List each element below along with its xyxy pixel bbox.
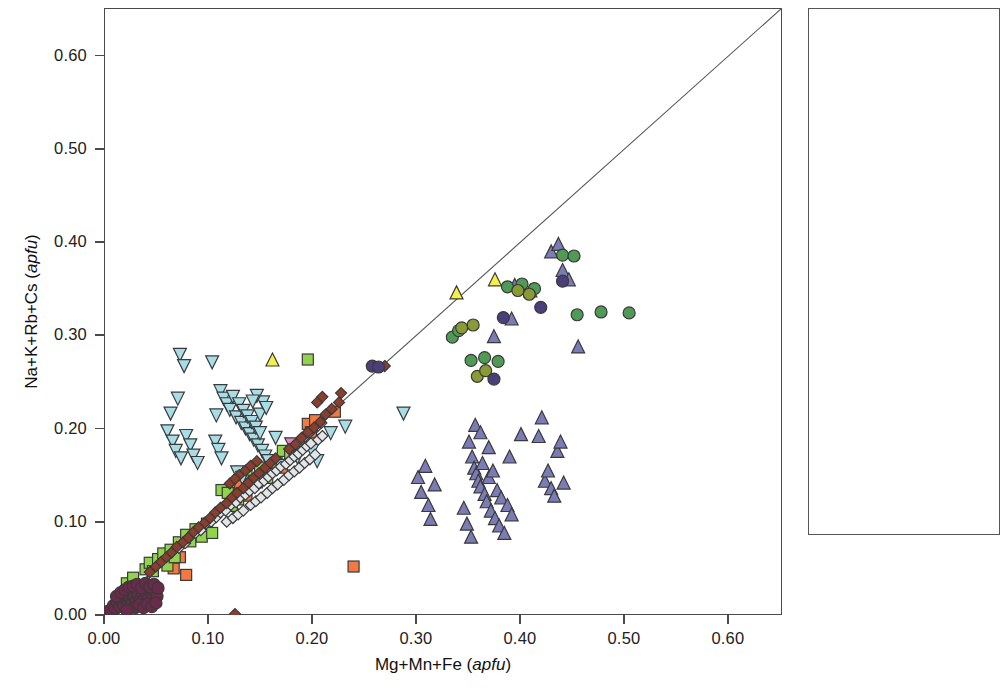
y-tick-label: 0.10 xyxy=(0,512,87,531)
x-tick-mark xyxy=(623,615,625,624)
x-tick-label: 0.40 xyxy=(475,629,565,648)
x-axis-title-unit: apfu xyxy=(472,655,505,674)
y-tick-mark xyxy=(95,55,104,57)
y-tick-label: 0.30 xyxy=(0,325,87,344)
x-axis-title-main: Mg+Mn+Fe xyxy=(375,655,462,674)
y-tick-label: 0.50 xyxy=(0,139,87,158)
plot-frame xyxy=(104,8,782,615)
y-axis-title-paren-close: ) xyxy=(22,234,41,240)
x-tick-mark xyxy=(415,615,417,624)
x-tick-mark xyxy=(311,615,313,624)
x-tick-mark xyxy=(519,615,521,624)
y-axis-title-main: Na+K+Rb+Cs xyxy=(22,283,41,388)
y-tick-mark xyxy=(95,428,104,430)
y-tick-label: 0.20 xyxy=(0,419,87,438)
y-tick-mark xyxy=(95,334,104,336)
y-tick-label: 0.00 xyxy=(0,605,87,624)
x-tick-label: 0.60 xyxy=(683,629,773,648)
x-tick-mark xyxy=(103,615,105,624)
x-axis-title: Mg+Mn+Fe (apfu) xyxy=(104,655,782,675)
scatter-plot-figure: 0.000.100.200.300.400.500.600.000.100.20… xyxy=(0,0,1004,691)
y-tick-label: 0.40 xyxy=(0,232,87,251)
x-tick-mark xyxy=(727,615,729,624)
y-tick-mark xyxy=(95,241,104,243)
x-tick-mark xyxy=(207,615,209,624)
y-tick-mark xyxy=(95,148,104,150)
x-tick-label: 0.10 xyxy=(163,629,253,648)
y-axis-title: Na+K+Rb+Cs (apfu) xyxy=(22,8,42,615)
x-tick-label: 0.50 xyxy=(579,629,669,648)
x-axis-title-paren-open: ( xyxy=(462,655,472,674)
y-tick-mark xyxy=(95,521,104,523)
x-tick-label: 0.30 xyxy=(371,629,461,648)
x-axis-title-paren-close: ) xyxy=(505,655,511,674)
y-tick-label: 0.60 xyxy=(0,46,87,65)
legend-box xyxy=(808,8,1000,535)
y-axis-title-paren-open: ( xyxy=(22,273,41,283)
x-tick-label: 0.20 xyxy=(267,629,357,648)
x-tick-label: 0.00 xyxy=(59,629,149,648)
y-axis-title-unit: apfu xyxy=(22,240,41,273)
